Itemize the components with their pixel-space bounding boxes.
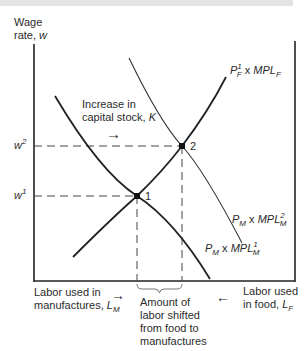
x-label-right-line1: Labor used [243, 285, 298, 298]
equilibrium-point-2 [179, 143, 185, 149]
label-pf-mplf: P1F x MPLF [230, 64, 281, 77]
capital-increase-annotation: Increase in capital stock, K [82, 98, 156, 124]
labor-shift-line1: Amount of [140, 296, 207, 309]
y-axis-title-line1: Wage [14, 16, 47, 29]
right-arrow-icon: → [106, 127, 121, 140]
x-label-left-line1: Labor used in [34, 286, 120, 299]
label-pm-mplm1: PM x MPL1M [205, 242, 259, 255]
labor-shift-label: Amount of labor shifted from food to man… [140, 296, 207, 348]
x-label-right: Labor used in food, LF [243, 285, 298, 311]
arrow-right-icon: → [111, 289, 125, 302]
equilibrium-point-1 [134, 193, 140, 199]
y-axis-title-line2: rate, w [14, 29, 47, 42]
labor-shift-line3: from food to [140, 322, 207, 335]
point-1-label: 1 [145, 190, 151, 203]
y-axis-title: Wage rate, w [14, 16, 47, 42]
shift-brace [137, 284, 182, 293]
x-label-right-line2: in food, LF [243, 298, 298, 311]
x-label-left-line2: manufactures, LM [34, 299, 120, 312]
point-2-label: 2 [190, 140, 196, 153]
labor-shift-line4: manufactures [140, 335, 207, 348]
labor-shift-line2: labor shifted [140, 309, 207, 322]
label-pm-mplm2: PM x MPL2M [232, 213, 286, 226]
tick-w1: w1 [14, 189, 26, 202]
annotation-line1: Increase in [82, 98, 156, 111]
arrow-left-icon: ← [216, 291, 230, 304]
x-label-left: Labor used in manufactures, LM [34, 286, 120, 312]
annotation-line2: capital stock, K [82, 111, 156, 124]
curve-pm-mplm2 [129, 58, 242, 243]
tick-w2: w2 [14, 139, 26, 152]
